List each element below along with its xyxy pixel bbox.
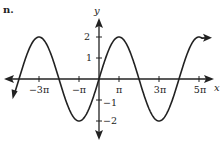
x-axis-label: x — [214, 82, 220, 93]
y-tick-label: 2 — [84, 31, 90, 42]
y-tick-label: −2 — [103, 115, 117, 126]
x-axis — [4, 75, 214, 83]
curve-arrow-left-icon — [12, 89, 18, 99]
sine-graph: n. y x −3π −π π 3π 5π 2 1 −1 −2 — [0, 0, 222, 143]
x-tick-label: π — [116, 84, 122, 95]
x-tick-label: −3π — [29, 84, 49, 95]
y-axis-label: y — [93, 5, 100, 16]
x-tick-label: 3π — [154, 84, 166, 95]
figure-label: n. — [3, 4, 14, 15]
y-tick-label: 1 — [86, 52, 92, 63]
y-tick-label: −1 — [103, 97, 117, 108]
x-tick-label: −π — [72, 84, 86, 95]
x-tick-label: 5π — [194, 84, 206, 95]
